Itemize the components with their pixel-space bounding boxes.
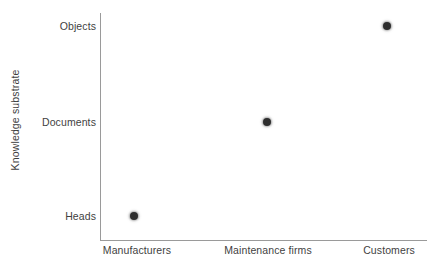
y-axis-tick-labels: ObjectsDocumentsHeads (28, 0, 96, 273)
scatter-chart: Knowledge substrate ObjectsDocumentsHead… (0, 0, 433, 273)
x-axis-line (100, 240, 427, 241)
y-tick-label: Documents (30, 116, 96, 128)
y-axis-line (100, 13, 101, 241)
point-customers-objects[interactable] (383, 22, 391, 30)
x-tick-label: Maintenance firms (224, 244, 311, 256)
y-tick-label: Heads (30, 210, 96, 222)
point-maintenance-documents[interactable] (263, 118, 271, 126)
y-axis-label: Knowledge substrate (9, 70, 21, 171)
y-axis-label-container: Knowledge substrate (0, 0, 30, 240)
point-manufacturers-heads[interactable] (130, 212, 138, 220)
x-axis-tick-labels: ManufacturersMaintenance firmsCustomers (0, 244, 433, 264)
x-tick-label: Customers (363, 244, 415, 256)
x-tick-label: Manufacturers (103, 244, 171, 256)
y-tick-label: Objects (30, 20, 96, 32)
